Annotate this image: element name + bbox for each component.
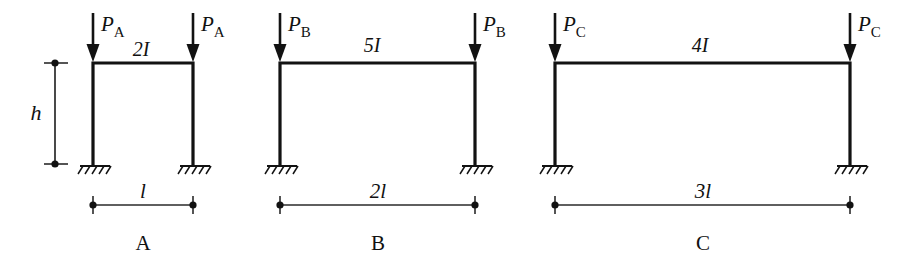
- frame-B-load-arrow-left-head: [274, 44, 287, 62]
- frame-C-load-arrow-right-head: [844, 44, 857, 62]
- frame-A-load-label-left: PA: [100, 12, 125, 40]
- frame-B-load-arrow-right: [469, 13, 482, 62]
- frame-C-support-right-hatch: [835, 166, 840, 174]
- figure-canvas: h PA PA 2I: [0, 0, 905, 263]
- frame-C-load-label-left: PC: [562, 12, 586, 40]
- frame-B-span-label: 2l: [370, 179, 387, 203]
- frame-A-load-arrow-left: [87, 13, 100, 62]
- frame-B-support-right-hatch: [467, 166, 472, 174]
- frame-B-caption: B: [371, 231, 385, 255]
- frame-B-load-arrow-left: [274, 13, 287, 62]
- frame-C-span-label: 3l: [694, 179, 712, 203]
- frame-C-span-dot-left: [551, 201, 558, 208]
- height-dimension-label: h: [31, 100, 42, 125]
- frame-A-support-right: [178, 166, 211, 174]
- frame-B-support-left-hatch: [293, 166, 298, 174]
- frame-C-support-left-hatch: [554, 166, 559, 174]
- frame-B-support-left-hatch: [279, 166, 284, 174]
- frame-C-support-right-hatch: [863, 166, 868, 174]
- frame-B-span-dot-right: [471, 201, 478, 208]
- frame-C-support-right-hatch: [842, 166, 847, 174]
- frame-C-support-left-hatch: [561, 166, 566, 174]
- frame-A-support-left: [78, 166, 111, 174]
- frame-C: PC PC 4I: [540, 12, 881, 255]
- frame-C-load-arrow-right: [844, 13, 857, 62]
- frame-A-load-arrow-right: [187, 13, 200, 62]
- frame-B-support-left-hatch: [286, 166, 291, 174]
- frame-A-span-dimension: l: [89, 179, 196, 214]
- frame-B-span-dot-left: [276, 201, 283, 208]
- frame-A-support-left-hatch: [78, 166, 83, 174]
- frame-A-support-right-hatch: [185, 166, 190, 174]
- frame-B-support-left-hatch: [265, 166, 270, 174]
- frame-A-support-left-hatch: [99, 166, 104, 174]
- frame-A-support-left-hatch: [92, 166, 97, 174]
- frame-B-support-left: [265, 166, 298, 174]
- frame-A-support-left-hatch: [85, 166, 90, 174]
- frame-C-support-left: [540, 166, 573, 174]
- frame-C-support-left-hatch: [547, 166, 552, 174]
- frame-C-support-right-hatch: [856, 166, 861, 174]
- frame-A-support-right-hatch: [192, 166, 197, 174]
- frame-B-load-label-left: PB: [287, 12, 311, 40]
- frame-B-portal-outline: [280, 63, 475, 164]
- frame-C-support-left-hatch: [540, 166, 545, 174]
- frame-B-span-dimension: 2l: [276, 179, 478, 214]
- frame-B-support-right-hatch: [474, 166, 479, 174]
- frame-C-caption: C: [696, 231, 710, 255]
- height-dimension-dot-top: [51, 59, 58, 66]
- frame-C-load-label-right: PC: [857, 12, 881, 40]
- frame-A-portal-outline: [93, 63, 193, 164]
- frame-C-load-arrow-left: [549, 13, 562, 62]
- frame-B-support-right-hatch: [488, 166, 493, 174]
- frame-B-support-right-hatch: [460, 166, 465, 174]
- frame-C-span-dimension: 3l: [551, 179, 853, 214]
- frame-A-support-right-hatch: [206, 166, 211, 174]
- frame-A: PA PA 2I: [78, 12, 225, 255]
- frame-A-load-label-right: PA: [200, 12, 225, 40]
- frame-B: PB PB 5I: [265, 12, 506, 255]
- frame-B-load-arrow-right-head: [469, 44, 482, 62]
- frame-C-support-right-hatch: [849, 166, 854, 174]
- frame-C-support-right: [835, 166, 868, 174]
- frame-A-support-right-hatch: [178, 166, 183, 174]
- frame-B-support-right-hatch: [481, 166, 486, 174]
- frame-C-span-dot-right: [846, 201, 853, 208]
- frame-C-portal-outline: [555, 63, 850, 164]
- height-dimension-dot-bottom: [51, 160, 58, 167]
- frame-A-caption: A: [135, 231, 151, 255]
- frame-C-support-left-hatch: [568, 166, 573, 174]
- frame-B-support-right: [460, 166, 493, 174]
- frame-A-beam-label: 2I: [133, 38, 151, 60]
- frame-B-beam-label: 5I: [364, 34, 382, 56]
- frame-C-load-arrow-left-head: [549, 44, 562, 62]
- frame-B-load-label-right: PB: [482, 12, 506, 40]
- frame-A-span-label: l: [140, 179, 146, 203]
- frame-A-load-arrow-right-head: [187, 44, 200, 62]
- frame-A-span-dot-right: [189, 201, 196, 208]
- frame-A-support-right-hatch: [199, 166, 204, 174]
- height-dimension-group: h: [31, 59, 69, 167]
- frame-C-beam-label: 4I: [692, 34, 710, 56]
- frame-A-span-dot-left: [89, 201, 96, 208]
- frame-B-support-left-hatch: [272, 166, 277, 174]
- frame-A-load-arrow-left-head: [87, 44, 100, 62]
- frame-A-support-left-hatch: [106, 166, 111, 174]
